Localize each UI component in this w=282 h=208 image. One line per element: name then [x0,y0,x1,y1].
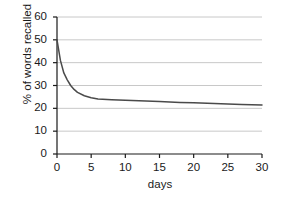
forgetting-curve-chart: 0102030405060 051015202530 % of words re… [0,0,282,208]
gridlines [57,17,262,131]
x-tick-label: 30 [250,162,274,174]
x-tick-label: 15 [148,162,172,174]
x-tick-label: 5 [79,162,103,174]
x-tick-label: 10 [113,162,137,174]
y-axis-title: % of words recalled [21,0,33,129]
x-tick-label: 25 [216,162,240,174]
x-axis-tick-marks [57,154,262,158]
x-tick-label: 20 [182,162,206,174]
x-axis-title: days [57,178,263,190]
y-tick-label: 0 [21,148,47,160]
x-tick-label: 0 [45,162,69,174]
data-series-line [57,40,262,105]
